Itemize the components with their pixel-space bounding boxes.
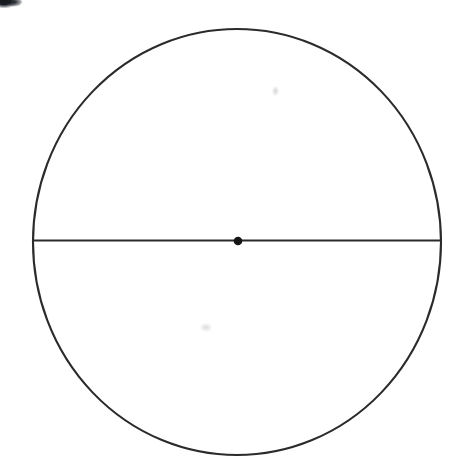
center-point-dot bbox=[234, 237, 243, 246]
circle-diagram bbox=[0, 0, 463, 473]
figure-canvas bbox=[0, 0, 463, 473]
